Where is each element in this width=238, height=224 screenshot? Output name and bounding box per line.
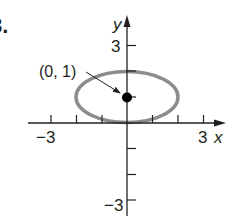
x-tick-label-3: 3	[198, 128, 207, 147]
x-tick-label-neg3: −3	[36, 128, 55, 147]
y-tick-label-neg3: −3	[104, 196, 123, 215]
x-axis-label: x	[213, 128, 223, 147]
y-axis	[124, 15, 137, 216]
problem-number: 8.	[0, 13, 8, 38]
y-axis-label: y	[112, 15, 123, 34]
x-axis-arrow-icon	[214, 120, 226, 127]
y-tick-label-3: 3	[111, 37, 120, 56]
graph-figure: 8.	[0, 0, 238, 224]
center-point	[122, 93, 132, 103]
center-point-label: (0, 1)	[39, 63, 76, 80]
y-axis-arrow-icon	[124, 15, 131, 27]
